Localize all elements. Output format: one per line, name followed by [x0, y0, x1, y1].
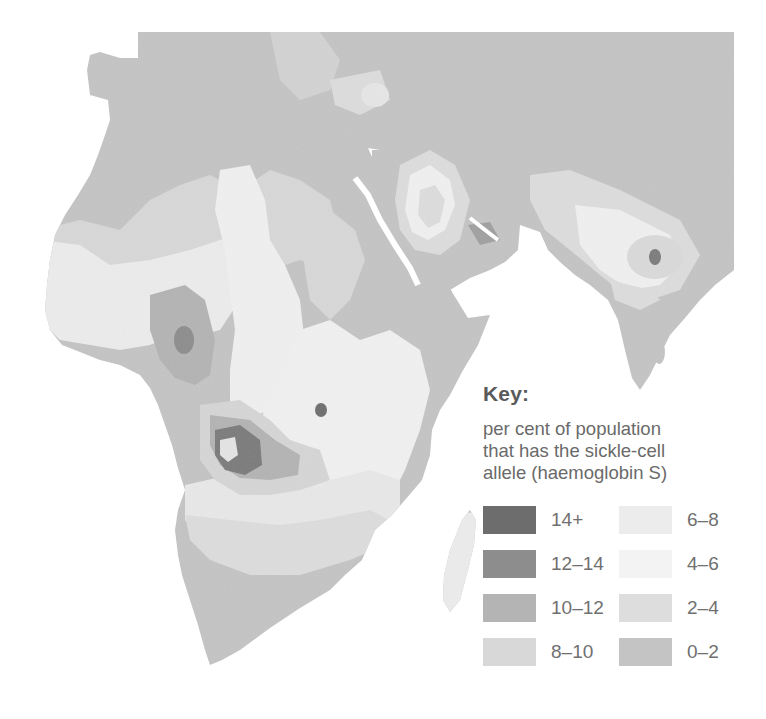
legend-item-14plus: 14+ [483, 506, 619, 534]
key-legend-grid: 14+ 6–8 12–14 4–6 10–12 2–4 8–10 0–2 [483, 506, 753, 666]
legend-item-2-4: 2–4 [619, 594, 755, 622]
key-title: Key: [483, 382, 753, 406]
legend-swatch [483, 506, 536, 534]
legend-label: 14+ [551, 509, 583, 531]
key-description-line: per cent of population [483, 418, 753, 440]
legend-item-12-14: 12–14 [483, 550, 619, 578]
legend-swatch [483, 594, 536, 622]
key-description: per cent of population that has the sick… [483, 418, 753, 484]
legend-label: 0–2 [687, 641, 719, 663]
legend-swatch [619, 594, 672, 622]
map-key: Key: per cent of population that has the… [483, 382, 753, 666]
legend-swatch [619, 506, 672, 534]
legend-swatch [619, 550, 672, 578]
legend-item-6-8: 6–8 [619, 506, 755, 534]
legend-label: 4–6 [687, 553, 719, 575]
legend-swatch [483, 550, 536, 578]
legend-item-8-10: 8–10 [483, 638, 619, 666]
legend-item-10-12: 10–12 [483, 594, 619, 622]
legend-label: 10–12 [551, 597, 604, 619]
legend-label: 2–4 [687, 597, 719, 619]
legend-item-4-6: 4–6 [619, 550, 755, 578]
legend-swatch [619, 638, 672, 666]
legend-label: 12–14 [551, 553, 604, 575]
legend-label: 6–8 [687, 509, 719, 531]
key-description-line: allele (haemoglobin S) [483, 462, 753, 484]
legend-label: 8–10 [551, 641, 593, 663]
legend-swatch [483, 638, 536, 666]
legend-item-0-2: 0–2 [619, 638, 755, 666]
key-description-line: that has the sickle-cell [483, 440, 753, 462]
